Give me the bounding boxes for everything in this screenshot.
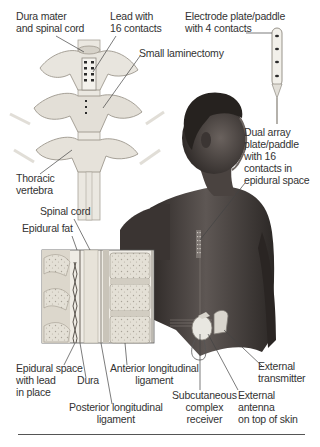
label-posterior-ligament: Posterior longitudinal ligament	[69, 401, 163, 425]
label-epidural-fat: Epidural fat	[22, 222, 73, 234]
electrode-paddle-illustration	[272, 28, 282, 124]
spine-cross-section-inset	[42, 250, 154, 343]
label-external-transmitter: External transmitter	[258, 360, 305, 384]
transmitter-device	[214, 310, 228, 334]
label-epidural-space: Epidural space with lead in place	[16, 362, 83, 398]
label-spinal-cord: Spinal cord	[40, 205, 90, 217]
label-anterior-ligament: Anterior longitudinal ligament	[110, 362, 199, 386]
label-thoracic-vertebra: Thoracic vertebra	[16, 172, 55, 196]
bottom-divider	[18, 434, 305, 435]
label-lead-16-contacts: Lead with 16 contacts	[110, 10, 162, 34]
label-electrode-paddle: Electrode plate/paddle with 4 contacts	[185, 10, 285, 34]
label-dura: Dura	[77, 374, 99, 386]
diagram-canvas: Dura mater and spinal cord Lead with 16 …	[0, 0, 320, 447]
label-dura-mater: Dura mater and spinal cord	[16, 10, 84, 34]
label-small-laminectomy: Small laminectomy	[139, 47, 224, 59]
label-external-antenna: External antenna on top of skin	[238, 389, 298, 425]
label-dual-array: Dual array plate/paddle with 16 contacts…	[244, 126, 310, 186]
label-subcutaneous-receiver: Subcutaneous complex receiver	[172, 389, 237, 425]
